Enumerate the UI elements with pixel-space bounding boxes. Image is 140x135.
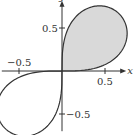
x-axis-label: x — [127, 65, 133, 76]
y-tick-label-pos: 0.5 — [42, 23, 58, 34]
x-tick-label-pos: 0.5 — [97, 76, 113, 87]
x-axis-arrow-icon — [120, 69, 126, 74]
plot-svg: x y −0.5 0.5 0.5 −0.5 — [0, 0, 140, 135]
polar-curve-figure: x y −0.5 0.5 0.5 −0.5 — [0, 0, 140, 135]
y-axis-label: y — [58, 0, 65, 2]
shaded-loop-region — [62, 6, 127, 71]
y-tick-label-neg: −0.5 — [66, 109, 90, 120]
x-tick-label-neg: −0.5 — [7, 57, 31, 68]
